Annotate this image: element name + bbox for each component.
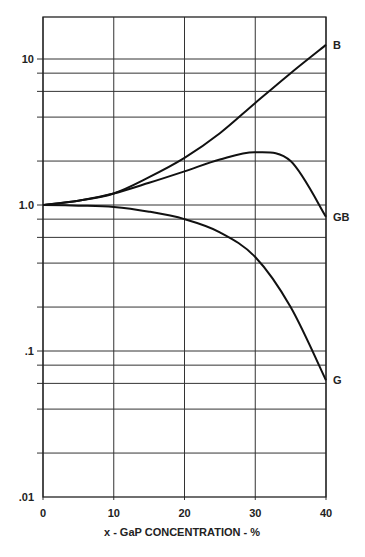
y-tick-label: 10: [22, 53, 34, 65]
x-tick-label: 30: [249, 507, 261, 519]
x-tick-label: 20: [178, 507, 190, 519]
x-axis-label: x - GaP CONCENTRATION - %: [104, 526, 260, 538]
y-tick-label: .1: [25, 345, 34, 357]
series-label-g: G: [333, 374, 342, 386]
y-tick-label: 1.0: [19, 199, 34, 211]
y-tick-label: .01: [19, 491, 34, 503]
x-tick-label: 10: [108, 507, 120, 519]
grid-lines: [37, 17, 326, 500]
y-axis-ticks: .01.11.010: [19, 53, 34, 503]
chart: .01.11.010 010203040 BGBG x - GaP CONCEN…: [0, 0, 365, 557]
x-tick-label: 40: [320, 507, 332, 519]
x-tick-label: 0: [40, 507, 46, 519]
series-label-b: B: [333, 39, 341, 51]
series-labels: BGBG: [333, 39, 350, 386]
x-axis-ticks: 010203040: [40, 507, 332, 519]
series-label-gb: GB: [333, 211, 350, 223]
